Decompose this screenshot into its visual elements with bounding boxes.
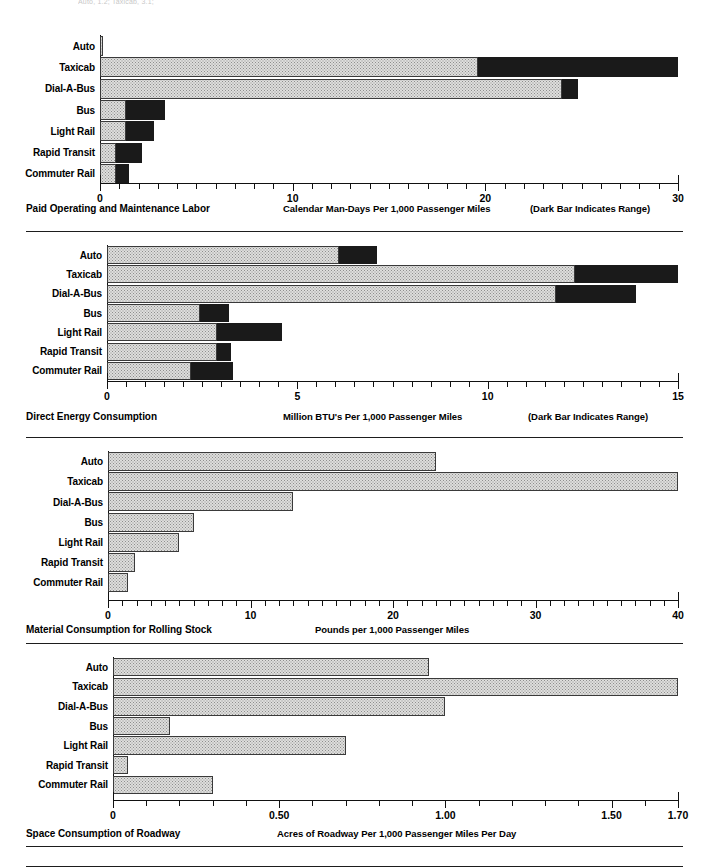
bar-segment-light — [107, 285, 556, 303]
axis-tick — [650, 600, 651, 606]
bar-segment-dark — [217, 323, 282, 341]
axis-tick — [293, 183, 294, 191]
legend-note: (Dark Bar Indicates Range) — [530, 203, 650, 214]
bar-segment-light — [113, 658, 429, 676]
axis-tick — [259, 381, 260, 387]
axis-tick — [393, 600, 394, 608]
bar-segment-light — [100, 36, 103, 56]
axis-cap-right — [678, 792, 679, 800]
chart-title: Space Consumption of Roadway — [26, 828, 180, 839]
axis-tick — [635, 600, 636, 606]
axis-tick — [146, 800, 147, 806]
category-label-auto: Auto — [80, 250, 102, 261]
bar-segment-dark — [116, 143, 142, 163]
bar-segment-dark — [562, 79, 577, 99]
axis-tick — [279, 800, 280, 808]
axis-tick — [312, 183, 313, 189]
axis-tick — [645, 800, 646, 806]
axis-tick-label: 30 — [672, 192, 684, 204]
axis-tick-label: 30 — [530, 609, 542, 621]
axis-tick — [639, 183, 640, 189]
bar-segment-dark — [116, 164, 129, 184]
axis-tick — [593, 600, 594, 606]
axis-tick — [436, 600, 437, 606]
axis-tick — [493, 600, 494, 606]
category-label-commuter-rail: Commuter Rail — [33, 577, 103, 588]
axis-tick — [545, 381, 546, 387]
category-label-bus: Bus — [83, 308, 102, 319]
axis-tick — [479, 800, 480, 806]
axis-tick — [196, 183, 197, 189]
axis-tick — [562, 183, 563, 189]
axis-tick — [621, 600, 622, 606]
category-label-rapid-transit: Rapid Transit — [33, 147, 95, 158]
axis-tick — [678, 183, 679, 191]
category-label-dial-a-bus: Dial-A-Bus — [53, 497, 103, 508]
bar-segment-light — [107, 304, 200, 322]
axis-tick — [393, 381, 394, 387]
axis-tick — [505, 183, 506, 189]
bar-segment-light — [113, 736, 346, 754]
axis-tick-label: 40 — [672, 609, 684, 621]
category-label-taxicab: Taxicab — [59, 62, 95, 73]
axis-tick — [216, 183, 217, 189]
category-label-dial-a-bus: Dial-A-Bus — [52, 288, 102, 299]
category-label-auto: Auto — [81, 456, 103, 467]
axis-tick — [113, 800, 114, 808]
axis-tick — [158, 183, 159, 189]
axis-cap-right — [678, 592, 679, 600]
bar-segment-light — [100, 164, 116, 184]
axis-tick — [379, 800, 380, 806]
axis-tick — [183, 381, 184, 387]
axis-tick — [370, 183, 371, 189]
category-label-taxicab: Taxicab — [66, 269, 102, 280]
axis-tick — [678, 600, 679, 608]
axis-tick — [379, 600, 380, 606]
bar-segment-light — [100, 57, 478, 77]
axis-tick — [350, 600, 351, 606]
chart-title: Paid Operating and Maintenance Labor — [26, 203, 210, 214]
bar-segment-light — [113, 678, 678, 696]
axis-tick — [279, 600, 280, 606]
axis-tick — [664, 600, 665, 606]
axis-tick — [521, 600, 522, 606]
axis-tick — [322, 600, 323, 606]
bar-segment-dark — [217, 343, 230, 361]
axis-tick-label: 20 — [387, 609, 399, 621]
bar-segment-dark — [126, 121, 154, 141]
axis-tick — [583, 381, 584, 387]
axis-tick — [447, 183, 448, 189]
bar-segment-dark — [556, 285, 636, 303]
bar-segment-light — [100, 79, 562, 99]
axis-tick — [137, 600, 138, 606]
x-axis-label: Pounds per 1,000 Passenger Miles — [315, 624, 469, 635]
category-label-taxicab: Taxicab — [67, 476, 103, 487]
x-axis-label: Acres of Roadway Per 1,000 Passenger Mil… — [277, 828, 516, 839]
axis-tick — [582, 183, 583, 189]
axis-tick — [222, 600, 223, 606]
axis-tick — [273, 183, 274, 189]
axis-tick — [507, 600, 508, 606]
category-label-dial-a-bus: Dial-A-Bus — [58, 701, 108, 712]
axis-tick — [464, 600, 465, 606]
bar-segment-light — [113, 697, 445, 715]
axis-tick-label: 0 — [105, 609, 111, 621]
axis-tick-label: 10 — [482, 390, 494, 402]
axis-tick — [524, 183, 525, 189]
axis-tick — [335, 381, 336, 387]
category-label-commuter-rail: Commuter Rail — [25, 168, 95, 179]
bar-segment-light — [108, 533, 179, 552]
axis-tick — [578, 600, 579, 606]
axis-tick — [526, 381, 527, 387]
x-axis — [113, 800, 678, 801]
axis-tick — [208, 600, 209, 606]
axis-tick — [254, 183, 255, 189]
axis-tick — [331, 183, 332, 189]
axis-tick — [450, 600, 451, 606]
category-label-rapid-transit: Rapid Transit — [41, 557, 103, 568]
axis-cap-left — [100, 175, 101, 183]
category-label-commuter-rail: Commuter Rail — [38, 779, 108, 790]
bar-segment-light — [108, 472, 678, 491]
axis-tick — [177, 183, 178, 189]
axis-tick — [407, 600, 408, 606]
